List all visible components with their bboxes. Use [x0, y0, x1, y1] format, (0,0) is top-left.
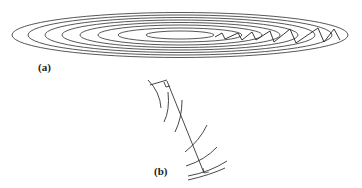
figure-canvas [0, 0, 362, 188]
contour-ellipse [62, 20, 298, 50]
panel-a-label: (a) [38, 61, 51, 73]
contour-ellipse [80, 23, 280, 48]
panel-b-label: (b) [154, 165, 167, 177]
contour-ellipses [12, 13, 348, 58]
contour-ellipse [28, 15, 332, 55]
contour-ellipse [146, 31, 214, 39]
zigzag-descent-path [215, 28, 340, 43]
